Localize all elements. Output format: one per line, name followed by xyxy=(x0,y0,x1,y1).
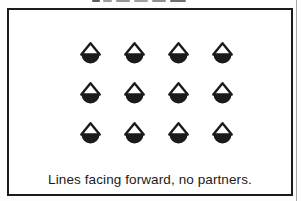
scanned-page: Lines facing forward, no partners. xyxy=(0,0,301,201)
cropped-text-remnant xyxy=(90,0,190,3)
dancer-facing-up-icon xyxy=(124,81,145,106)
scan-artifact-line xyxy=(296,0,297,201)
dancer-facing-up-icon xyxy=(124,121,145,146)
dancer-facing-up-icon xyxy=(212,41,233,66)
dancer-grid xyxy=(80,41,233,146)
dancer-facing-up-icon xyxy=(124,41,145,66)
dancer-facing-up-icon xyxy=(168,41,189,66)
dancer-facing-up-icon xyxy=(212,121,233,146)
formation-diagram-frame: Lines facing forward, no partners. xyxy=(7,8,293,196)
formation-caption: Lines facing forward, no partners. xyxy=(9,172,291,187)
dancer-facing-up-icon xyxy=(168,121,189,146)
dancer-facing-up-icon xyxy=(80,121,101,146)
dancer-facing-up-icon xyxy=(80,41,101,66)
dancer-facing-up-icon xyxy=(168,81,189,106)
dancer-facing-up-icon xyxy=(80,81,101,106)
dancer-facing-up-icon xyxy=(212,81,233,106)
